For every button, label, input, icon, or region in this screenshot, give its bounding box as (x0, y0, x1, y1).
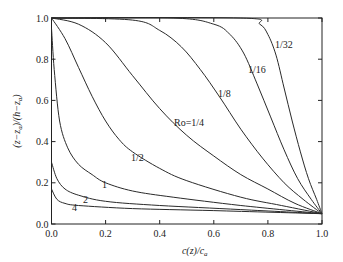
y-tick-label: 0.2 (36, 177, 49, 188)
x-tick-label: 0.0 (45, 228, 58, 239)
x-tick-label: 1.0 (316, 228, 329, 239)
curve-labels: 4 2 1 1/2 Ro=1/4 1/8 1/16 1/32 (72, 39, 293, 213)
label-ro-1-4: Ro=1/4 (174, 117, 204, 128)
x-tick-label: 0.8 (262, 228, 275, 239)
label-ro-4: 4 (72, 202, 77, 213)
y-tick-label: 0.4 (36, 136, 49, 147)
label-ro-1-16: 1/16 (248, 64, 266, 75)
x-tick-label: 0.4 (153, 228, 166, 239)
label-ro-1-32: 1/32 (275, 39, 293, 50)
y-tick-label: 1.0 (36, 13, 49, 24)
y-axis-label: (z−za)/(h−za) (11, 94, 24, 148)
y-tick-label: 0.0 (36, 219, 49, 230)
label-ro-1: 1 (102, 179, 107, 190)
y-tick-label: 0.6 (36, 95, 49, 106)
label-ro-2: 2 (83, 194, 88, 205)
label-ro-1-2: 1/2 (131, 152, 144, 163)
x-tick-label: 0.6 (208, 228, 221, 239)
chart: 0.00.20.40.60.81.00.00.20.40.60.81.0c(z)… (0, 0, 343, 262)
x-axis-label: c(z)/ca (182, 245, 208, 258)
x-tick-label: 0.2 (99, 228, 112, 239)
label-ro-1-8: 1/8 (218, 88, 231, 99)
y-tick-label: 0.8 (36, 54, 49, 65)
